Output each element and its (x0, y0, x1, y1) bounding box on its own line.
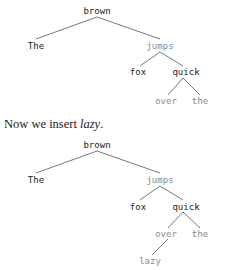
node-jumps: jumps (146, 41, 173, 51)
node-quick: quick (172, 67, 200, 77)
edge-jumps-fox (140, 186, 160, 200)
node-lazy: lazy (139, 256, 161, 266)
node-over: over (155, 96, 177, 106)
caption: Now we insert lazy. (4, 117, 103, 132)
edge-brown-jumps (97, 151, 160, 173)
edge-quick-the (183, 212, 200, 228)
node-over: over (155, 229, 177, 239)
tree-before-insert: brown The jumps fox quick over the (28, 6, 208, 106)
tree-after-insert: brown The jumps fox quick over the lazy (28, 140, 208, 266)
edge-jumps-quick (160, 186, 183, 200)
edge-brown-jumps (97, 17, 160, 39)
edge-jumps-quick (160, 52, 183, 66)
edge-quick-the (183, 78, 200, 95)
caption-emphasis: lazy (80, 117, 100, 131)
node-fox: fox (130, 67, 147, 77)
tree-diagrams: brown The jumps fox quick over the brown… (0, 0, 226, 270)
node-the: the (192, 229, 208, 239)
node-brown: brown (83, 6, 110, 16)
node-The: The (28, 175, 44, 185)
node-The: The (28, 41, 44, 51)
caption-suffix: . (100, 117, 103, 131)
node-fox: fox (130, 202, 147, 212)
node-quick: quick (172, 202, 200, 212)
node-jumps: jumps (146, 175, 173, 185)
caption-prefix: Now we insert (4, 117, 80, 131)
edge-quick-over (168, 212, 183, 228)
node-the: the (192, 96, 208, 106)
edge-jumps-fox (140, 52, 160, 66)
edge-quick-over (168, 78, 183, 95)
edge-over-lazy (152, 239, 168, 255)
node-brown: brown (83, 140, 110, 150)
edge-brown-the (36, 17, 97, 39)
edge-brown-the (36, 151, 97, 173)
